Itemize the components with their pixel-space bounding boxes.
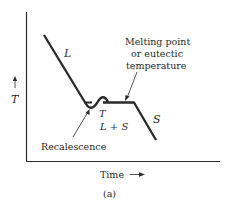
melting-point-text: Melting point	[125, 36, 190, 47]
mixture-temp-label: T	[99, 108, 107, 119]
recalescence-arrow	[73, 112, 88, 137]
arrow-head-icon	[125, 95, 130, 101]
up-arrow-icon	[13, 76, 17, 81]
figure-caption: (a)	[103, 188, 116, 199]
right-arrow-icon	[139, 172, 145, 176]
liquid-label: L	[63, 47, 71, 60]
solid-label: S	[153, 113, 161, 126]
recalescence-text: Recalescence	[41, 141, 107, 152]
y-axis-label: T	[11, 93, 20, 106]
melting-point-arrow	[127, 72, 137, 98]
mixture-label: L + S	[99, 121, 128, 132]
eutectic-text: or eutectic	[131, 48, 183, 59]
temperature-text: temperature	[126, 60, 187, 71]
x-axis-label: Time	[100, 169, 124, 180]
cooling-curve-diagram: T L T L + S S Melting point or eutectic …	[0, 0, 230, 208]
arrow-head-icon	[86, 109, 90, 115]
